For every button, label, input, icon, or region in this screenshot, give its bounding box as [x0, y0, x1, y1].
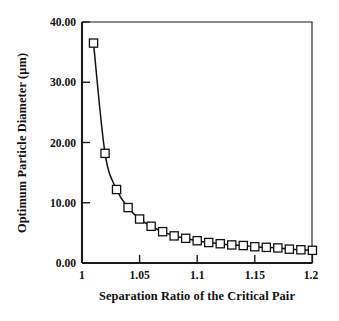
y-axis-title: Optimum Particle Diameter (µm): [15, 53, 29, 233]
data-point: [193, 237, 201, 245]
y-tick-label-0: 0.00: [56, 257, 76, 270]
data-point: [239, 241, 247, 249]
chart-background: [0, 0, 339, 321]
y-tick-label-20: 20.00: [50, 137, 76, 150]
data-point: [136, 215, 144, 223]
x-tick-label-1-1: 1.1: [190, 269, 205, 282]
x-tick-label-1-05: 1.05: [129, 269, 149, 282]
data-point: [159, 228, 167, 236]
x-tick-label-1: 1: [79, 269, 85, 282]
data-point: [170, 232, 178, 240]
data-point: [112, 185, 120, 193]
x-axis-title: Separation Ratio of the Critical Pair: [99, 289, 295, 303]
y-tick-label-10: 10.00: [50, 197, 76, 210]
x-tick-label-1-15: 1.15: [245, 269, 265, 282]
data-point: [274, 244, 282, 252]
data-point: [228, 241, 236, 249]
data-point: [124, 203, 132, 211]
y-tick-label-40: 40.00: [50, 16, 76, 29]
optimum-particle-diameter-chart: 40.00 30.00 20.00 10.00 0.00 1 1.05 1.1 …: [0, 0, 339, 321]
data-point: [147, 222, 155, 230]
data-point: [262, 243, 270, 251]
data-point: [251, 243, 259, 251]
data-point: [205, 238, 213, 246]
data-point: [297, 246, 305, 254]
data-point: [285, 245, 293, 253]
chart-figure: 40.00 30.00 20.00 10.00 0.00 1 1.05 1.1 …: [0, 0, 339, 321]
data-point: [89, 39, 97, 47]
data-point: [101, 149, 109, 157]
data-point: [216, 240, 224, 248]
x-tick-label-1-2: 1.2: [304, 269, 319, 282]
y-tick-label-30: 30.00: [50, 76, 76, 89]
data-point: [308, 246, 316, 254]
data-point: [182, 234, 190, 242]
